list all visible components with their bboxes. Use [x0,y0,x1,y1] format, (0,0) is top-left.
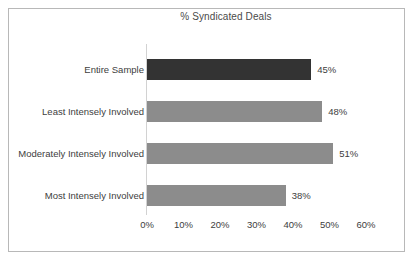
bar-row: Most Intensely Involved38% [0,185,414,206]
bar-row: Moderately Intensely Involved51% [0,143,414,164]
category-label: Moderately Intensely Involved [0,143,144,164]
bar-value-label: 51% [339,143,358,164]
x-tick-label: 30% [237,219,277,230]
category-label: Least Intensely Involved [0,101,144,122]
bar-row: Entire Sample45% [0,59,414,80]
x-tick-label: 20% [200,219,240,230]
x-tick-label: 10% [164,219,204,230]
x-tick-label: 40% [273,219,313,230]
bar-row: Least Intensely Involved48% [0,101,414,122]
bar [147,143,333,164]
category-label: Entire Sample [0,59,144,80]
bar [147,101,322,122]
bar-value-label: 48% [328,101,347,122]
x-axis-tick-labels: 0%10%20%30%40%50%60% [0,219,414,233]
bar-value-label: 38% [292,185,311,206]
chart-screenshot: % Syndicated Deals Entire Sample45%Least… [0,0,414,263]
x-tick-label: 0% [127,219,167,230]
x-tick-label: 50% [310,219,350,230]
x-tick-label: 60% [346,219,386,230]
bar [147,59,311,80]
bar [147,185,286,206]
category-label: Most Intensely Involved [0,185,144,206]
bar-value-label: 45% [317,59,336,80]
